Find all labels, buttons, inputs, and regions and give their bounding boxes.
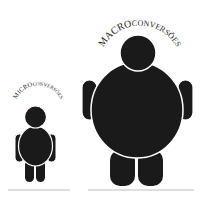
illustration-canvas: MICROCONVERSÕES MACROCONVERSÕES <box>0 0 205 198</box>
micro-figure <box>15 106 56 182</box>
macro-figure <box>82 35 193 186</box>
micro-label: MICROCONVERSÕES <box>11 80 64 100</box>
